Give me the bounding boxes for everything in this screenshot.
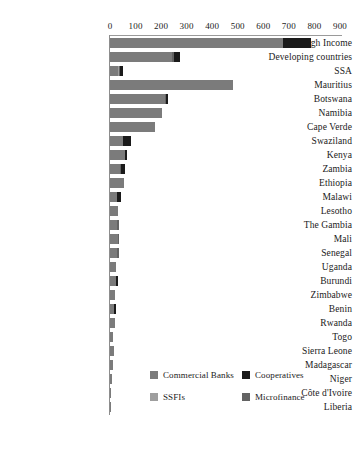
stacked-bar [110, 304, 116, 314]
category-label: Cape Verde [246, 120, 356, 134]
stacked-bar [110, 318, 115, 328]
bar-row: Sierra Leone [0, 344, 356, 358]
bar-row: Rwanda [0, 316, 356, 330]
category-label: Swaziland [246, 134, 356, 148]
bar-segment [121, 164, 125, 174]
x-axis-tick-labels: 0100200300400500600700800900 [0, 20, 356, 34]
bar-segment [110, 360, 113, 370]
legend-item[interactable]: Cooperatives [242, 370, 350, 380]
category-label: Senegal [246, 246, 356, 260]
bar-segment [110, 206, 118, 216]
category-label: SSA [246, 64, 356, 78]
stacked-bar [110, 360, 113, 370]
legend-label: Cooperatives [255, 370, 304, 380]
legend-swatch-icon [242, 393, 250, 401]
bar-row: Ethiopia [0, 176, 356, 190]
legend-label: SSFIs [163, 392, 185, 402]
category-label: Zimbabwe [246, 288, 356, 302]
bar-row: Zambia [0, 162, 356, 176]
stacked-bar [110, 66, 123, 76]
category-label: Malawi [246, 190, 356, 204]
category-label: Uganda [246, 260, 356, 274]
stacked-bar [110, 136, 131, 146]
chart-legend: Commercial BanksCooperativesSSFIsMicrofi… [150, 364, 350, 408]
legend-label: Commercial Banks [163, 370, 234, 380]
bar-row: Benin [0, 302, 356, 316]
category-label: Mauritius [246, 78, 356, 92]
category-label: The Gambia [246, 218, 356, 232]
x-tick-label: 100 [128, 20, 142, 32]
bar-segment [110, 318, 115, 328]
stacked-bar [110, 346, 114, 356]
stacked-bar [110, 108, 162, 118]
category-label: Mali [246, 232, 356, 246]
category-label: Botswana [246, 92, 356, 106]
category-label: Benin [246, 302, 356, 316]
bar-segment [174, 52, 180, 62]
bar-row: Uganda [0, 260, 356, 274]
stacked-bar [110, 290, 115, 300]
stacked-bar [110, 388, 111, 398]
x-tick-label: 0 [108, 20, 113, 32]
bar-segment [110, 178, 124, 188]
bar-segment [118, 234, 120, 244]
x-tick-label: 400 [205, 20, 219, 32]
stacked-bar [110, 38, 311, 48]
x-tick-label: 900 [333, 20, 347, 32]
bar-segment [110, 66, 118, 76]
bar-row: Kenya [0, 148, 356, 162]
stacked-bar [110, 150, 127, 160]
bar-row: Namibia [0, 106, 356, 120]
plot-area: High IncomeDeveloping countriesSSAMaurit… [0, 36, 356, 414]
bar-row: Burundi [0, 274, 356, 288]
stacked-bar [110, 276, 118, 286]
stacked-bar [110, 262, 116, 272]
bar-chart: 0100200300400500600700800900 High Income… [0, 0, 356, 453]
bar-row: The Gambia [0, 218, 356, 232]
bar-segment [110, 94, 165, 104]
bar-row: Malawi [0, 190, 356, 204]
legend-swatch-icon [150, 393, 158, 401]
bar-segment [166, 94, 168, 104]
stacked-bar [110, 206, 118, 216]
stacked-bar [110, 248, 119, 258]
stacked-bar [110, 94, 168, 104]
bar-segment [117, 248, 119, 258]
stacked-bar [110, 220, 119, 230]
x-tick-label: 600 [256, 20, 270, 32]
bar-segment [110, 262, 116, 272]
bar-segment [110, 346, 114, 356]
bar-segment [114, 304, 117, 314]
stacked-bar [110, 80, 233, 90]
category-label: Zambia [246, 162, 356, 176]
bar-row: Swaziland [0, 134, 356, 148]
bar-row: Developing countries [0, 50, 356, 64]
stacked-bar [110, 192, 121, 202]
stacked-bar [110, 122, 155, 132]
bar-segment [110, 388, 111, 398]
bar-segment [117, 220, 119, 230]
stacked-bar [110, 234, 119, 244]
category-label: Ethiopia [246, 176, 356, 190]
bar-row: Senegal [0, 246, 356, 260]
bar-segment [117, 192, 121, 202]
bar-row: Lesotho [0, 204, 356, 218]
legend-item[interactable]: Commercial Banks [150, 370, 242, 380]
legend-item[interactable]: SSFIs [150, 392, 242, 402]
stacked-bar [110, 52, 180, 62]
bar-segment [110, 80, 233, 90]
legend-item[interactable]: Microfinance [242, 392, 350, 402]
bar-segment [110, 248, 117, 258]
category-label: Sierra Leone [246, 344, 356, 358]
stacked-bar [110, 402, 111, 412]
legend-swatch-icon [242, 371, 250, 379]
bar-segment [283, 38, 312, 48]
legend-swatch-icon [150, 371, 158, 379]
bar-row: Cape Verde [0, 120, 356, 134]
bar-segment [110, 374, 112, 384]
bar-row: Zimbabwe [0, 288, 356, 302]
bar-row: High Income [0, 36, 356, 50]
bar-segment [110, 108, 162, 118]
legend-label: Microfinance [255, 392, 305, 402]
bar-segment [110, 332, 113, 342]
